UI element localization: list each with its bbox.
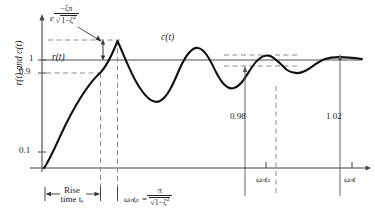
band-lower-arrowhead — [243, 66, 247, 72]
peak-time-numerator: π — [147, 187, 172, 196]
overshoot-radicand: 1−ζ2 — [60, 15, 77, 25]
overshoot-radicand-exponent: 2 — [73, 14, 76, 20]
band-lower-label: 0.98 — [230, 112, 246, 121]
overshoot-leader-line — [78, 27, 99, 40]
band-upper-label: 1.02 — [326, 112, 342, 121]
overshoot-leader-arrowhead — [96, 35, 102, 41]
curve-label-c: c(t) — [161, 33, 174, 43]
x-axis-label: ωₙt — [344, 175, 355, 184]
x-axis-arrowhead — [366, 166, 372, 171]
overshoot-exponent-denominator: √1−ζ2 — [54, 14, 79, 25]
y-axis-arrowhead — [39, 14, 44, 21]
peak-time-formula-lhs: ωₙtₚ = — [124, 194, 147, 204]
y-tick-label-1: 1 — [29, 54, 34, 63]
figure-second-order-step-response: r(t) and c(t) — [0, 0, 375, 216]
peak-time-denominator: √1−ζ2 — [147, 196, 172, 207]
rise-time-label-line2: time tᵣ — [43, 195, 101, 204]
y-tick-label-0-9: 0.9 — [19, 67, 30, 76]
overshoot-exponent-numerator: −ζπ — [54, 5, 79, 14]
y-axis-title: r(t) and c(t) — [14, 0, 24, 128]
peak-time-denominator-exponent: 2 — [166, 196, 169, 202]
rise-time-label: Rise time tᵣ — [43, 186, 101, 204]
y-tick-label-0-1: 0.1 — [19, 146, 30, 155]
settling-time-label: ωₙtₛ — [256, 175, 270, 184]
overshoot-expression: e −ζπ √1−ζ2 — [50, 9, 79, 29]
peak-time-formula: ωₙtₚ = π √1−ζ2 — [124, 190, 172, 210]
curve-label-r: r(t) — [52, 53, 65, 63]
plot-canvas — [0, 0, 375, 216]
